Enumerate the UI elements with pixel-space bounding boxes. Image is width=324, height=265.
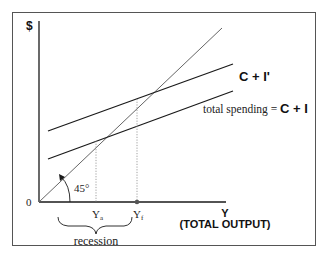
aggregate-expenditure-diagram: 45° $ 0 Y (TOTAL OUTPUT) C + I' total sp… <box>0 0 324 265</box>
label-total-spending-prefix: total spending = <box>203 103 280 116</box>
tick-label-ya: Ya <box>92 208 104 222</box>
spending-line-c-plus-i <box>48 91 233 159</box>
forty-five-degree-line <box>39 28 222 202</box>
label-total-spending-c-plus-i: C + I <box>280 101 308 116</box>
frame-border <box>13 13 316 246</box>
yf-point <box>135 200 140 205</box>
tick-label-yf: Yf <box>133 208 144 222</box>
label-total-spending: total spending = C + I <box>203 101 308 116</box>
spending-line-c-plus-i-prime <box>48 64 233 131</box>
y-axis-label: $ <box>26 19 33 33</box>
recession-label: recession <box>74 234 119 248</box>
x-axis-label-total-output: (TOTAL OUTPUT) <box>179 218 270 230</box>
angle-label: 45° <box>74 182 89 194</box>
label-c-plus-i-prime: C + I' <box>239 69 270 84</box>
origin-label: 0 <box>26 196 32 208</box>
angle-arc <box>61 177 70 202</box>
